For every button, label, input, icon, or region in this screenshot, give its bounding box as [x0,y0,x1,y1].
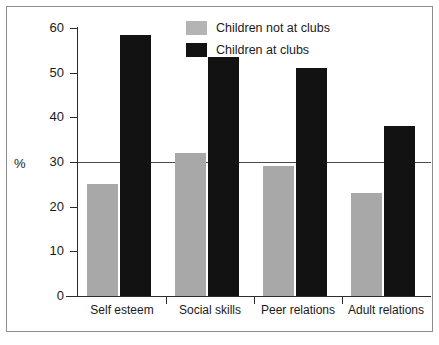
x-category-label: Adult relations [342,303,430,317]
bar-at-clubs [120,35,151,296]
bar-not-at-clubs [175,153,206,296]
bar-not-at-clubs [87,184,118,296]
x-axis-line [66,296,431,297]
y-tick-label: 40 [30,110,64,123]
y-tick-label: 60 [30,21,64,34]
bar-chart-figure: % 6050403020100 Self esteemSocial skills… [0,0,439,345]
y-tick-mark [70,73,78,74]
y-tick-mark [70,296,78,297]
x-category-label: Social skills [166,303,254,317]
legend-swatch-gray [186,21,207,35]
x-group-separator [342,297,343,304]
legend-item: Children not at clubs [186,18,330,37]
y-tick-label: 0 [30,289,64,302]
y-tick-label: 10 [30,244,64,257]
x-group-separator [254,297,255,304]
y-tick-mark [70,28,78,29]
y-tick-label: 50 [30,66,64,79]
chart-legend: Children not at clubsChildren at clubs [186,18,330,62]
y-tick-label: 20 [30,200,64,213]
y-axis-title: % [14,156,26,171]
bar-at-clubs [384,126,415,296]
y-tick-mark [70,207,78,208]
y-tick-label: 30 [30,155,64,168]
bar-not-at-clubs [263,166,294,296]
bar-not-at-clubs [351,193,382,296]
y-tick-mark [70,117,78,118]
bar-at-clubs [208,57,239,296]
legend-item: Children at clubs [186,40,330,59]
x-category-label: Peer relations [254,303,342,317]
legend-label: Children not at clubs [216,21,330,35]
bar-at-clubs [296,68,327,296]
x-group-separator [166,297,167,304]
legend-swatch-black [186,43,207,57]
y-tick-mark [70,162,78,163]
x-category-label: Self esteem [78,303,166,317]
legend-label: Children at clubs [216,43,309,57]
y-tick-mark [70,251,78,252]
